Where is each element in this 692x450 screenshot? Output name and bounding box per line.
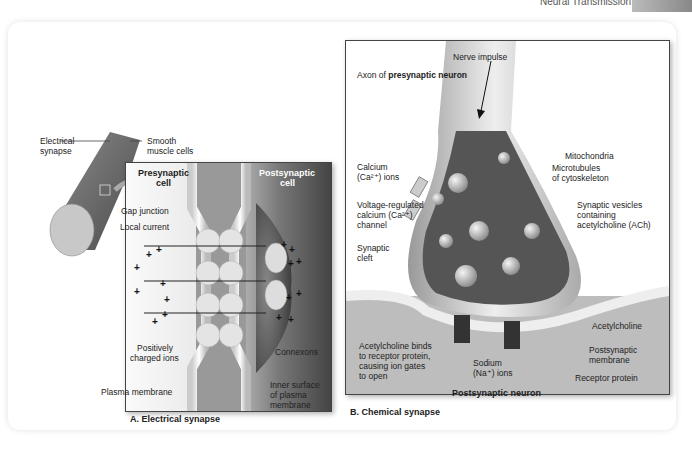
- electrical-synapse-panel: +++ +++ ++ ++++ ++++: [125, 162, 332, 412]
- label-inner-surface: Inner surface: [270, 380, 320, 390]
- label-inner-surface-3: membrane: [270, 400, 311, 410]
- caption-electrical-synapse: A. Electrical synapse: [130, 414, 220, 424]
- label-sodium-ions: Sodium: [473, 358, 502, 368]
- svg-text:+: +: [134, 262, 140, 273]
- label-synaptic-vesicles-2: containing: [577, 210, 616, 220]
- label-inner-surface-2: of plasma: [270, 390, 307, 400]
- label-postsynaptic-membrane-2: membrane: [589, 355, 630, 365]
- label-synaptic-vesicles: Synaptic vesicles: [577, 200, 642, 210]
- label-calcium-ions-2: (Ca²⁺) ions: [357, 172, 399, 182]
- caption-chemical-synapse: B. Chemical synapse: [350, 407, 440, 417]
- svg-text:+: +: [146, 249, 152, 260]
- label-postsynaptic-cell-2: cell: [280, 178, 295, 188]
- label-smooth-muscle-2: muscle cells: [147, 146, 193, 156]
- svg-text:+: +: [162, 309, 168, 320]
- label-ach-binds-4: to open: [359, 371, 387, 381]
- label-postsynaptic-neuron: Postsynaptic neuron: [452, 388, 541, 398]
- svg-text:+: +: [276, 312, 282, 323]
- label-mitochondria: Mitochondria: [565, 151, 614, 161]
- svg-text:+: +: [286, 292, 292, 303]
- label-calcium-ions: Calcium: [357, 162, 388, 172]
- label-electrical-synapse-2: synapse: [40, 146, 72, 156]
- label-smooth-muscle: Smooth: [147, 136, 176, 146]
- label-receptor-protein: Receptor protein: [575, 373, 638, 383]
- label-ach-binds-2: to receptor protein,: [359, 351, 430, 361]
- label-postsynaptic-membrane: Postsynaptic: [589, 345, 637, 355]
- label-positive-ions-2: charged ions: [130, 353, 179, 363]
- label-vg-channel: Voltage-regulated: [357, 200, 424, 210]
- label-nerve-impulse: Nerve impulse: [453, 52, 507, 62]
- svg-text:+: +: [152, 316, 158, 327]
- label-axon-presynaptic: Axon of presynaptic neuron: [357, 70, 467, 80]
- label-presynaptic-cell: Presynaptic: [138, 168, 189, 178]
- svg-text:+: +: [296, 288, 302, 299]
- label-presynaptic-cell-2: cell: [156, 178, 171, 188]
- svg-text:+: +: [160, 278, 166, 289]
- svg-text:+: +: [289, 244, 295, 255]
- label-gap-junction: Gap junction: [121, 206, 169, 216]
- label-electrical-synapse: Electrical: [40, 136, 74, 146]
- label-ach-binds: Acetylcholine binds: [359, 341, 432, 351]
- label-microtubules-2: of cytoskeleton: [552, 173, 609, 183]
- svg-text:+: +: [296, 256, 302, 267]
- label-vg-channel-2: calcium (Ca²⁺): [357, 210, 413, 220]
- label-positive-ions: Positively: [137, 343, 173, 353]
- label-local-current: Local current: [120, 222, 169, 232]
- svg-text:+: +: [288, 314, 294, 325]
- svg-text:+: +: [288, 258, 294, 269]
- svg-text:+: +: [281, 239, 287, 250]
- label-postsynaptic-cell: Postsynaptic: [259, 168, 315, 178]
- svg-text:+: +: [156, 244, 162, 255]
- label-sodium-ions-2: (Na⁺) ions: [473, 368, 512, 378]
- label-plasma-membrane: Plasma membrane: [101, 387, 172, 397]
- svg-text:+: +: [134, 286, 140, 297]
- label-synaptic-cleft: Synaptic: [357, 243, 390, 253]
- svg-text:+: +: [164, 294, 170, 305]
- label-synaptic-vesicles-3: acetylcholine (ACh): [577, 220, 651, 230]
- label-connexons: Connexons: [275, 347, 318, 357]
- label-ach-binds-3: causing ion gates: [359, 361, 425, 371]
- label-vg-channel-3: channel: [357, 220, 387, 230]
- label-acetylcholine: Acetylcholine: [592, 321, 642, 331]
- label-synaptic-cleft-2: cleft: [357, 253, 373, 263]
- label-microtubules: Microtubules: [552, 163, 600, 173]
